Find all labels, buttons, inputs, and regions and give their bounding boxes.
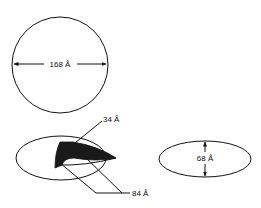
diagram-canvas: 168 Å 34 Å 84 Å 68 Å (0, 0, 261, 208)
sphere-figure: 168 Å (12, 17, 108, 113)
thickness-leader (75, 121, 102, 143)
minor-axis-label: 68 Å (197, 154, 214, 163)
thickness-label: 34 Å (103, 115, 120, 124)
oblate-wedge-figure: 34 Å 84 Å (16, 115, 149, 198)
diameter-label: 168 Å (50, 60, 72, 69)
oblate-ellipsoid-figure: 68 Å (159, 141, 251, 177)
length-leader-1 (60, 163, 122, 193)
length-label: 84 Å (132, 189, 149, 198)
length-leader-2 (85, 157, 130, 193)
